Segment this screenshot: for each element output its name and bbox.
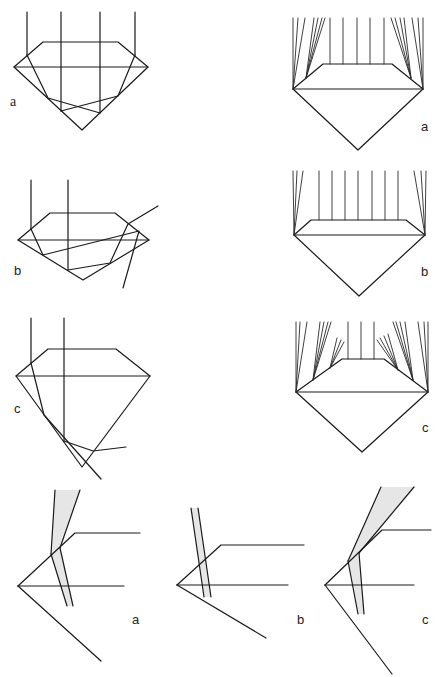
panel-label: b (421, 264, 428, 279)
ray (412, 18, 423, 89)
panel-label: a (132, 612, 140, 627)
left-panel-c: c (14, 318, 150, 479)
gem-outline (14, 42, 148, 130)
gem-outline (296, 359, 428, 452)
ray (388, 334, 398, 370)
ray (330, 342, 344, 368)
ray (306, 18, 325, 78)
ray (425, 171, 426, 235)
panel-label: b (14, 263, 21, 278)
left-panel-a: a (10, 12, 148, 130)
bottom-panel-c: c (325, 487, 431, 674)
gem-outline (294, 220, 425, 296)
ray-path (27, 55, 100, 113)
ray (393, 322, 413, 380)
panel-label: b (297, 612, 304, 627)
panel-label: a (421, 119, 429, 134)
panel-label: c (14, 401, 21, 416)
light-beam (51, 490, 80, 554)
bottom-panel-a: a (18, 490, 140, 661)
gem-outline (16, 349, 150, 467)
ray (293, 18, 305, 89)
left-panel-b: b (14, 180, 158, 288)
ray (418, 18, 423, 89)
bottom-panel-b: b (177, 508, 304, 638)
right-panel-a: a (293, 18, 429, 150)
ray-path (31, 363, 101, 479)
ray (424, 322, 428, 392)
ray (380, 338, 398, 370)
ray (418, 322, 428, 392)
ray (293, 18, 298, 89)
right-panel-b: b (293, 171, 428, 296)
right-panel-c: c (296, 322, 429, 452)
ray (391, 18, 411, 78)
ray (306, 18, 314, 78)
pavilion-facet (18, 586, 101, 661)
crown-facet (177, 545, 304, 585)
gem-outline (293, 64, 423, 150)
panel-label: c (422, 420, 429, 435)
crown-facet (18, 533, 140, 586)
pavilion-facet (177, 585, 266, 638)
ray-path (61, 55, 135, 111)
ray (293, 171, 294, 235)
panel-label: c (422, 612, 429, 627)
light-beam (191, 508, 211, 597)
panel-label: a (10, 94, 17, 109)
crown-facet (325, 530, 431, 585)
diagram-canvas: a a b (0, 0, 443, 677)
